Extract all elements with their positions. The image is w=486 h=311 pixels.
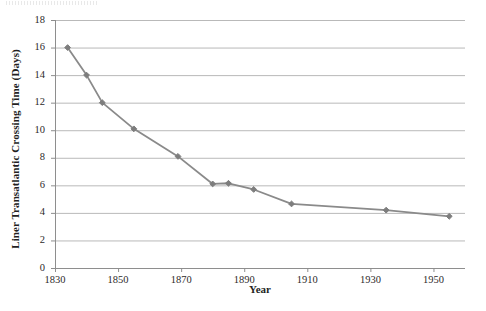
y-tick-label: 10 <box>15 125 45 135</box>
data-point-marker <box>251 187 257 193</box>
data-point-marker <box>446 213 452 219</box>
data-point-marker <box>383 207 389 213</box>
series-line <box>68 48 450 217</box>
y-tick-label: 8 <box>15 152 45 162</box>
chart-container: Liner Transatlantic Crossing Time (Days)… <box>0 0 486 311</box>
x-tick-label: 1830 <box>25 274 85 285</box>
x-tick-label: 1950 <box>403 274 463 285</box>
y-tick-label: 4 <box>15 207 45 217</box>
x-tick-label: 1910 <box>277 274 337 285</box>
y-tick-label: 16 <box>15 42 45 52</box>
y-tick-label: 6 <box>15 180 45 190</box>
y-tick-label: 0 <box>15 263 45 273</box>
y-tick-label: 18 <box>15 15 45 25</box>
x-tick-label: 1870 <box>151 274 211 285</box>
y-tick-label: 2 <box>15 235 45 245</box>
x-tick-label: 1890 <box>214 274 274 285</box>
x-tick-label: 1930 <box>340 274 400 285</box>
y-tick-label: 12 <box>15 97 45 107</box>
data-point-marker <box>289 201 295 207</box>
data-point-marker <box>226 180 232 186</box>
y-tick-label: 14 <box>15 70 45 80</box>
x-tick-label: 1850 <box>88 274 148 285</box>
plot-area <box>0 0 486 311</box>
